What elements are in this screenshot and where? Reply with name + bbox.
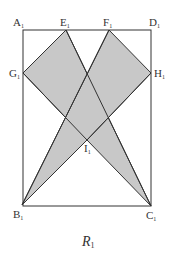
figure-caption: R1 (81, 234, 95, 250)
label-c1: C1 (146, 209, 156, 222)
label-g1: G1 (9, 67, 20, 80)
label-f1: F1 (103, 16, 112, 29)
label-d1: D1 (149, 16, 160, 29)
label-h1: H1 (154, 67, 165, 80)
label-e1: E1 (60, 16, 70, 29)
geometry-diagram: A1 E1 F1 D1 G1 H1 I1 B1 C1 R1 (0, 0, 174, 261)
label-b1: B1 (13, 208, 23, 221)
label-a1: A1 (13, 16, 24, 29)
label-i1: I1 (84, 142, 91, 155)
